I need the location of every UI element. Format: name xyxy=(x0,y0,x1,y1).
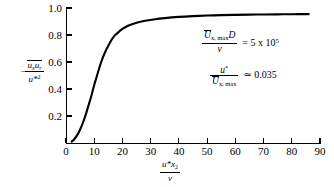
reynolds-fraction: Ux, maxDv xyxy=(202,30,237,54)
y-axis-fraction: uxuru*2 xyxy=(25,60,43,84)
x-axis-title: u*x2v xyxy=(140,159,200,183)
x-tick-10 xyxy=(94,138,95,144)
x-tick-label-60: 60 xyxy=(220,145,250,157)
y-axis-title: −uxuru*2 xyxy=(2,60,62,84)
x-tick-label-40: 40 xyxy=(164,145,194,157)
x-tick-label-70: 70 xyxy=(249,145,279,157)
x-tick-90 xyxy=(319,138,320,144)
annotation-friction-velocity-ratio: u*Ux, max ≃ 0.035 xyxy=(196,63,332,89)
annotation-block: Ux, maxDv = 5 x 105 u*Ux, max ≃ 0.035 xyxy=(196,30,332,97)
y-tick-0.2 xyxy=(66,115,72,116)
x-axis-line xyxy=(66,143,321,144)
y-tick-1.0 xyxy=(66,7,72,8)
chart-figure: 01020304050607080900.20.40.60.81.0 −uxur… xyxy=(0,0,334,187)
x-tick-label-0: 0 xyxy=(51,145,81,157)
y-axis-line xyxy=(66,8,67,144)
friction-fraction: u*Ux, max xyxy=(210,63,238,89)
y-tick-label-0.4: 0.4 xyxy=(36,84,62,95)
x-tick-70 xyxy=(263,138,264,144)
y-tick-0.8 xyxy=(66,34,72,35)
y-tick-label-1.0: 1.0 xyxy=(36,3,62,14)
friction-value: ≃ 0.035 xyxy=(238,70,276,80)
x-tick-20 xyxy=(122,138,123,144)
x-tick-60 xyxy=(235,138,236,144)
x-tick-30 xyxy=(150,138,151,144)
reynolds-value: = 5 x 105 xyxy=(237,36,279,48)
x-tick-label-20: 20 xyxy=(107,145,137,157)
y-tick-0.6 xyxy=(66,61,72,62)
x-tick-0 xyxy=(65,138,66,144)
x-tick-label-80: 80 xyxy=(277,145,307,157)
y-tick-label-0.2: 0.2 xyxy=(36,111,62,122)
x-tick-label-50: 50 xyxy=(192,145,222,157)
y-tick-0.4 xyxy=(66,88,72,89)
y-tick-label-0.8: 0.8 xyxy=(36,30,62,41)
x-tick-80 xyxy=(291,138,292,144)
x-tick-50 xyxy=(207,138,208,144)
x-tick-40 xyxy=(178,138,179,144)
x-axis-fraction: u*x2v xyxy=(160,159,180,183)
annotation-reynolds-number: Ux, maxDv = 5 x 105 xyxy=(196,30,332,54)
x-tick-label-30: 30 xyxy=(136,145,166,157)
x-tick-label-90: 90 xyxy=(305,145,334,157)
x-tick-label-10: 10 xyxy=(79,145,109,157)
